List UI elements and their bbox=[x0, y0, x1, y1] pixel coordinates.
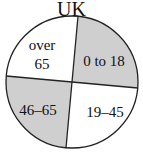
label-19-45: 19–45 bbox=[86, 104, 124, 120]
label-0-to-18: 0 to 18 bbox=[83, 53, 125, 69]
label-46-65: 46–65 bbox=[19, 102, 57, 118]
label-over-65-line2: 65 bbox=[35, 56, 50, 72]
pie-chart: 0 to 18 19–45 46–65 over 65 bbox=[0, 0, 143, 157]
label-over-65-line1: over bbox=[29, 37, 56, 53]
